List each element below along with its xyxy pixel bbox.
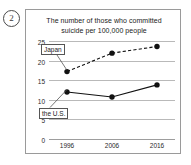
chart-title-line-1: The number of those who committed [46,17,161,24]
callout-label-us: the U.S. [39,108,68,119]
y-tick-20: 20 [38,58,45,65]
callout-label-japan: Japan [41,44,65,55]
y-tick-0: 0 [41,137,45,144]
series-layer [49,41,175,139]
gridline-0: 0 [49,139,175,140]
data-point-japan-2016 [154,44,159,49]
data-point-japan-2006 [109,50,114,55]
series-line-japan [67,46,157,71]
data-point-japan-1996 [64,69,69,74]
plot-area: 25 20 15 10 5 0 1996 2006 2016 [49,41,175,139]
data-point-us-1996 [64,89,69,94]
item-number-badge: 2 [3,10,20,27]
chart-title-line-2: suicide per 100,000 people [32,26,176,36]
chart-title: The number of those who committed suicid… [32,16,176,35]
x-tick-1996: 1996 [60,142,74,149]
chart-figure: The number of those who committed suicid… [25,9,181,154]
x-tick-2016: 2016 [150,142,164,149]
data-point-us-2006 [109,94,114,99]
figure-panel: 2 The number of those who committed suic… [0,0,191,165]
y-tick-15: 15 [38,78,45,85]
data-point-us-2016 [154,82,159,87]
x-tick-2006: 2006 [105,142,119,149]
y-tick-10: 10 [38,97,45,104]
